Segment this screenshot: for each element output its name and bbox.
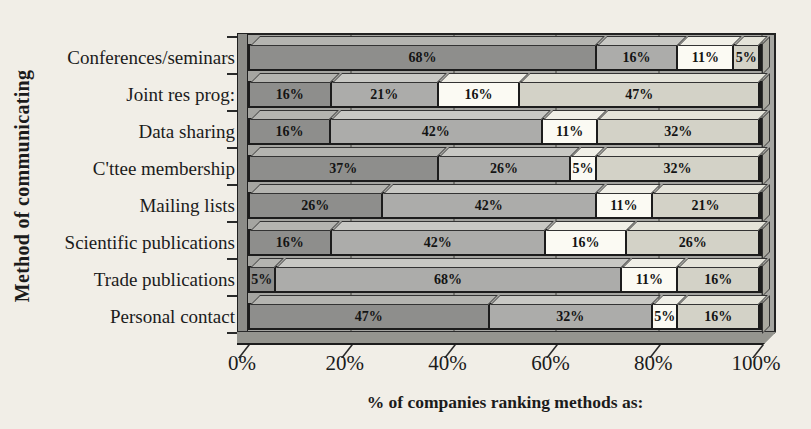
segment-value-label: 11%	[692, 51, 719, 65]
bar-segment-segment-2: 32%	[490, 305, 653, 328]
segment-value-label: 16%	[276, 88, 304, 102]
segment-value-label: 42%	[475, 199, 503, 213]
bar-segment-segment-4: 16%	[678, 268, 760, 291]
segment-value-label: 42%	[424, 236, 452, 250]
segment-value-label: 16%	[572, 236, 600, 250]
x-axis-title-text: % of companies ranking methods as:	[367, 392, 644, 412]
y-axis-title: Method of communicating	[9, 36, 35, 336]
segment-value-label: 68%	[434, 273, 462, 287]
category-tick	[227, 295, 237, 297]
bar-row: 16%42%11%32%	[248, 118, 762, 145]
bar-row: 16%21%16%47%	[248, 81, 762, 108]
segment-value-label: 47%	[355, 310, 383, 324]
bar-row: 47%32%5%16%	[248, 303, 762, 330]
bar-segment-segment-4: 32%	[598, 120, 760, 143]
segment-value-label: 16%	[704, 310, 732, 324]
bar-row: 5%68%11%16%	[248, 266, 762, 293]
category-tick	[227, 73, 237, 75]
segment-value-label: 16%	[275, 125, 303, 139]
bar-segment-segment-3: 5%	[653, 305, 679, 328]
bar-segment-segment-3: 11%	[597, 194, 653, 217]
category-label: Trade publications	[94, 266, 235, 293]
segment-value-label: 26%	[301, 199, 329, 213]
category-tick	[227, 110, 237, 112]
bar-segment-segment-4: 47%	[520, 83, 760, 106]
bar-segment-segment-1: 5%	[250, 268, 276, 291]
category-tick	[227, 147, 237, 149]
segment-value-label: 16%	[276, 236, 304, 250]
bar-segment-segment-1: 16%	[250, 83, 332, 106]
bar-segment-segment-4: 21%	[653, 194, 760, 217]
segment-value-label: 11%	[636, 273, 663, 287]
bar-segment-segment-3: 11%	[678, 46, 734, 69]
bar-segment-segment-3: 16%	[439, 83, 521, 106]
x-axis-tick-label: 100%	[711, 351, 801, 376]
segment-value-label: 5%	[573, 162, 594, 176]
category-label: Data sharing	[138, 118, 235, 145]
category-label: C'ttee membership	[93, 155, 235, 182]
bar-segment-segment-1: 47%	[250, 305, 490, 328]
segment-value-label: 16%	[623, 51, 651, 65]
segment-value-label: 11%	[610, 199, 637, 213]
category-tick	[227, 184, 237, 186]
segment-value-label: 5%	[736, 51, 757, 65]
category-tick	[227, 36, 237, 38]
bar-segment-segment-4: 26%	[627, 231, 760, 254]
category-tick	[227, 258, 237, 260]
bar-segment-segment-2: 16%	[597, 46, 679, 69]
segment-value-label: 11%	[556, 125, 583, 139]
bar-segment-segment-4: 32%	[597, 157, 760, 180]
bar-segment-segment-1: 16%	[250, 231, 332, 254]
segment-value-label: 5%	[654, 310, 675, 324]
bar-segment-segment-2: 42%	[331, 120, 543, 143]
segment-value-label: 32%	[664, 125, 692, 139]
bar-segment-segment-3: 11%	[622, 268, 678, 291]
bar-row: 26%42%11%21%	[248, 192, 762, 219]
category-tick	[227, 221, 237, 223]
bar-segment-segment-3: 11%	[543, 120, 599, 143]
segment-value-label: 21%	[370, 88, 398, 102]
category-label: Joint res prog:	[126, 81, 235, 108]
segment-value-label: 47%	[625, 88, 653, 102]
segment-value-label: 42%	[422, 125, 450, 139]
x-axis-tick-label: 0%	[197, 351, 287, 376]
bar-segment-segment-1: 68%	[250, 46, 597, 69]
bar-segment-segment-4: 16%	[678, 305, 760, 328]
category-label: Scientific publications	[65, 229, 235, 256]
segment-value-label: 26%	[490, 162, 518, 176]
bar-segment-segment-2: 26%	[439, 157, 572, 180]
x-axis-tick-label: 20%	[300, 351, 390, 376]
x-axis-tick-label: 60%	[505, 351, 595, 376]
category-label: Mailing lists	[139, 192, 235, 219]
bar-segment-segment-4: 5%	[734, 46, 760, 69]
y-axis-title-text: Method of communicating	[11, 70, 33, 302]
scanned-page: Method of communicating 68%16%11%5%16%21…	[0, 0, 811, 429]
segment-value-label: 37%	[329, 162, 357, 176]
bar-segment-segment-2: 42%	[383, 194, 597, 217]
segment-value-label: 21%	[691, 199, 719, 213]
segment-value-label: 32%	[663, 162, 691, 176]
category-label: Conferences/seminars	[67, 44, 235, 71]
segment-value-label: 5%	[251, 273, 272, 287]
bar-segment-segment-1: 37%	[250, 157, 439, 180]
axis-wall	[237, 33, 248, 345]
bar-row: 37%26%5%32%	[248, 155, 762, 182]
category-tick	[227, 332, 237, 334]
bar-segment-segment-3: 5%	[571, 157, 597, 180]
x-axis-title: % of companies ranking methods as:	[240, 392, 770, 413]
bar-segment-segment-2: 21%	[332, 83, 439, 106]
plot-area: 68%16%11%5%16%21%16%47%16%42%11%32%37%26…	[237, 33, 776, 345]
bar-row: 16%42%16%26%	[248, 229, 762, 256]
bar-segment-segment-2: 68%	[276, 268, 623, 291]
bar-segment-segment-3: 16%	[546, 231, 628, 254]
bar-segment-segment-2: 42%	[332, 231, 546, 254]
category-label: Personal contact	[110, 303, 235, 330]
segment-value-label: 68%	[408, 51, 436, 65]
x-axis-tick-label: 40%	[403, 351, 493, 376]
segment-value-label: 32%	[556, 310, 584, 324]
x-axis-tick-label: 80%	[608, 351, 698, 376]
segment-value-label: 26%	[679, 236, 707, 250]
segment-value-label: 16%	[704, 273, 732, 287]
bar-segment-segment-1: 26%	[250, 194, 383, 217]
bar-row: 68%16%11%5%	[248, 44, 762, 71]
